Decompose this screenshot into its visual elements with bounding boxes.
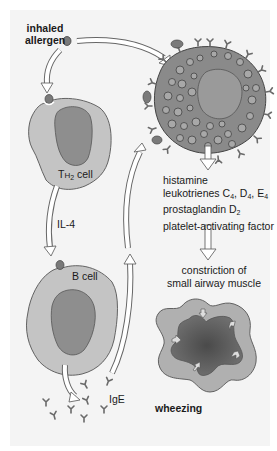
label-sub-e: 4 [264,193,268,200]
label-il4: IL-4 [57,218,75,230]
label-constriction: constriction of small airway muscle [165,264,263,289]
label-prostaglandin-d: prostaglandin D [163,203,237,215]
label-paf: platelet-activating factor [163,220,274,233]
label-sub-2: 2 [237,209,241,216]
label-allergen: allergen [25,34,65,46]
label-th2-cell: TH2 cell [58,168,93,184]
label-leukotrienes-d: , D [234,187,247,199]
arrow-allergen-to-mast-cell-icon [77,40,170,66]
label-constriction-line1: constriction of [165,264,263,277]
label-mediators: histamine leukotrienes C4, D4, E4 prosta… [163,174,274,232]
arrow-il4-icon [44,186,57,256]
label-constriction-line2: small airway muscle [165,277,263,290]
label-b-cell: B cell [72,270,98,282]
arrow-allergen-to-th2-icon [41,50,60,93]
label-th2-suffix: cell [74,168,93,180]
label-leukotrienes: leukotrienes C4, D4, E4 [163,187,274,204]
label-histamine: histamine [163,174,274,187]
label-wheezing: wheezing [155,402,202,414]
arrow-ige-to-mast-cell-icon [126,143,146,248]
label-inhaled: inhaled [25,22,65,34]
label-ige: IgE [109,393,125,405]
label-leukotrienes-c: leukotrienes C [163,187,230,199]
label-prostaglandin: prostaglandin D2 [163,203,274,220]
label-inhaled-allergen: inhaled allergen [25,22,65,46]
label-leukotrienes-e: , E [251,187,264,199]
constricted-airway-icon [156,299,256,392]
mast-cell-icon [143,39,273,163]
